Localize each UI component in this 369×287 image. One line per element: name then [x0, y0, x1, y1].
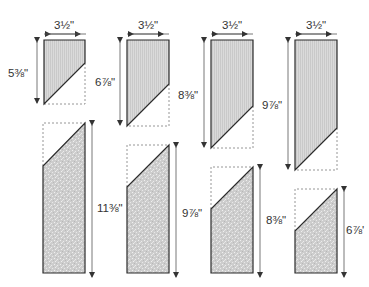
column-1-top-height-label: 5⅜"	[8, 68, 28, 80]
column-3-bottom-height-label: 8⅜"	[266, 215, 286, 227]
bottom-piece	[211, 167, 260, 277]
column-3	[204, 34, 260, 277]
column-4-top-height-label: 9⅞"	[262, 100, 282, 112]
bottom-piece	[43, 123, 92, 277]
column-2-bottom-height-label: 9⅞"	[182, 208, 202, 220]
top-piece	[120, 40, 169, 126]
column-2	[120, 34, 176, 277]
top-piece	[37, 40, 85, 104]
column-3-top-height-label: 8⅜"	[178, 90, 198, 102]
top-piece	[288, 40, 337, 170]
column-2-top-height-label: 6⅞"	[95, 77, 115, 89]
bottom-piece	[127, 145, 176, 277]
top-piece	[204, 40, 253, 148]
bottom-piece	[295, 189, 344, 277]
column-1-width-label: 3½"	[54, 20, 74, 32]
column-3-width-label: 3½"	[222, 20, 242, 32]
cutting-diagram	[0, 0, 369, 287]
column-4	[288, 34, 344, 277]
column-2-width-label: 3½"	[138, 20, 158, 32]
column-4-width-label: 3½"	[306, 20, 326, 32]
column-1	[37, 34, 92, 277]
column-4-bottom-height-label: 6⅞'	[346, 225, 364, 237]
column-1-bottom-height-label: 11⅜"	[97, 203, 123, 215]
